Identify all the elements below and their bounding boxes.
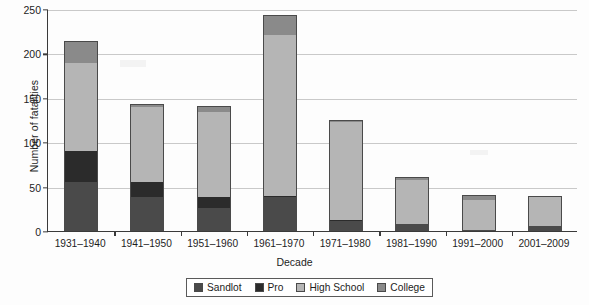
legend-label: College xyxy=(390,282,425,293)
bar-segment-high-school xyxy=(197,112,231,197)
y-tick-label: 250 xyxy=(23,4,48,16)
x-tick-label: 2001–2009 xyxy=(499,238,589,249)
y-tick-label: 50 xyxy=(29,182,48,194)
bar-2001–2009[interactable] xyxy=(528,196,562,232)
bar-1951–1960[interactable] xyxy=(197,106,231,231)
bar-1971–1980[interactable] xyxy=(329,120,363,231)
x-axis-title: Decade xyxy=(0,256,589,268)
bar-segment-high-school xyxy=(528,196,562,226)
legend-label: High School xyxy=(309,282,364,293)
gridline xyxy=(48,10,577,11)
bar-segment-pro xyxy=(197,197,231,208)
bar-segment-sandlot xyxy=(263,197,297,231)
x-tick-mark xyxy=(379,231,380,236)
bar-segment-college xyxy=(64,41,98,63)
bar-1931–1940[interactable] xyxy=(64,41,98,231)
bar-1991–2000[interactable] xyxy=(462,195,496,231)
legend-item-high-school[interactable]: High School xyxy=(296,282,364,293)
bar-segment-college xyxy=(263,15,297,35)
bar-segment-high-school xyxy=(462,200,496,231)
legend-swatch xyxy=(377,283,386,292)
bar-segment-sandlot xyxy=(130,197,164,231)
bar-segment-sandlot xyxy=(528,226,562,231)
bar-segment-sandlot xyxy=(395,224,429,231)
gridline xyxy=(48,188,577,189)
x-tick-mark xyxy=(247,231,248,236)
bar-segment-high-school xyxy=(64,63,98,151)
y-tick-label: 100 xyxy=(23,137,48,149)
plot-area: 050100150200250 xyxy=(47,10,577,232)
bar-segment-sandlot xyxy=(329,221,363,231)
bar-1941–1950[interactable] xyxy=(130,104,164,231)
scan-artifact xyxy=(470,150,488,155)
legend-label: Sandlot xyxy=(207,282,242,293)
x-tick-mark xyxy=(114,231,115,236)
bar-segment-high-school xyxy=(329,122,363,221)
legend-swatch xyxy=(194,283,203,292)
chart-figure: Number of fatalities 050100150200250 Dec… xyxy=(0,0,589,305)
legend-swatch xyxy=(255,283,264,292)
bar-segment-pro xyxy=(130,182,164,197)
x-tick-mark xyxy=(313,231,314,236)
bar-1981–1990[interactable] xyxy=(395,177,429,231)
legend-label: Pro xyxy=(268,282,284,293)
bar-segment-sandlot xyxy=(64,182,98,231)
x-tick-mark xyxy=(446,231,447,236)
legend-item-college[interactable]: College xyxy=(377,282,425,293)
legend-item-sandlot[interactable]: Sandlot xyxy=(194,282,242,293)
y-tick-label: 200 xyxy=(23,48,48,60)
chart-legend: SandlotProHigh SchoolCollege xyxy=(186,278,433,297)
gridline xyxy=(48,143,577,144)
bar-segment-sandlot xyxy=(197,208,231,231)
scan-artifact xyxy=(120,60,146,67)
x-tick-mark xyxy=(512,231,513,236)
bar-1961–1970[interactable] xyxy=(263,15,297,231)
bar-segment-pro xyxy=(64,151,98,182)
bar-segment-high-school xyxy=(395,180,429,224)
y-tick-label: 0 xyxy=(35,226,48,238)
bar-segment-high-school xyxy=(130,107,164,182)
legend-item-pro[interactable]: Pro xyxy=(255,282,284,293)
y-tick-label: 150 xyxy=(23,93,48,105)
x-tick-mark xyxy=(181,231,182,236)
gridline xyxy=(48,99,577,100)
legend-swatch xyxy=(296,283,305,292)
bar-segment-high-school xyxy=(263,35,297,196)
gridline xyxy=(48,54,577,55)
